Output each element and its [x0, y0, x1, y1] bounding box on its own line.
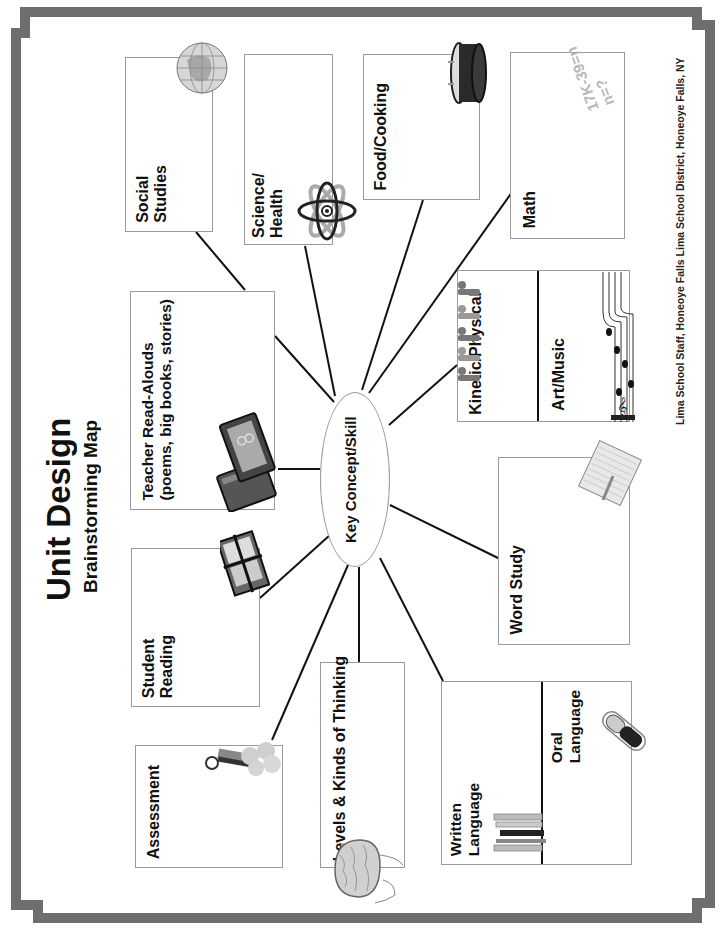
- label-line: Language: [566, 690, 584, 763]
- label-line: Science/: [250, 173, 268, 238]
- label-line: Food/Cooking: [372, 83, 390, 191]
- page-title: Unit Design: [40, 383, 76, 601]
- music-staff-icon: 𝄞: [595, 272, 643, 422]
- credit-line: Lima School Staff, Honeoye Falls Lima Sc…: [674, 45, 688, 425]
- label-line: Reading: [158, 635, 176, 698]
- label-line: Teacher Read-Alouds: [139, 299, 157, 501]
- label-line: Word Study: [508, 545, 526, 634]
- label-line: Math: [521, 191, 539, 228]
- label-line: Student: [140, 635, 158, 698]
- label-levels-kinds-thinking: Levels & Kinds of Thinking: [331, 656, 349, 861]
- page-subtitle: Brainstorming Map: [80, 383, 106, 593]
- atom-icon: [296, 180, 358, 242]
- label-oral-language: Oral Language: [548, 690, 584, 763]
- book-stack-icon: [220, 525, 270, 605]
- label-line: (poems, big books, stories): [157, 299, 175, 501]
- label-line: Studies: [152, 165, 170, 223]
- label-teacher-read-alouds: Teacher Read-Alouds (poems, big books, s…: [139, 299, 175, 501]
- label-social-studies: Social Studies: [134, 165, 171, 223]
- open-book-icon: [203, 412, 281, 512]
- label-science-health: Science/ Health: [250, 173, 287, 238]
- label-line: Health: [268, 173, 286, 238]
- label-assessment: Assessment: [145, 765, 163, 859]
- label-line: Social: [134, 165, 152, 223]
- label-food-cooking: Food/Cooking: [372, 83, 390, 191]
- label-written-language: Written Language: [447, 783, 483, 856]
- label-student-reading: Student Reading: [140, 635, 177, 698]
- label-math: Math: [521, 191, 539, 228]
- notepad-pencil-icon: [575, 440, 645, 506]
- globe-icon: [175, 42, 229, 94]
- ribbon-medals-icon: [192, 738, 287, 788]
- label-line: Assessment: [145, 765, 163, 859]
- label-line: Art/Music: [550, 338, 568, 411]
- label-key-concept: Key Concept/Skill: [342, 405, 359, 555]
- label-line: Written: [447, 783, 465, 856]
- label-line: Levels & Kinds of Thinking: [331, 656, 349, 861]
- label-line: Language: [465, 783, 483, 856]
- svg-text:𝄞: 𝄞: [617, 395, 628, 417]
- key-concept-ellipse: Key Concept/Skill: [320, 392, 390, 567]
- cooking-pot-icon: [448, 40, 488, 106]
- label-line: Oral: [548, 690, 566, 763]
- microphone-icon: [595, 705, 653, 757]
- brain-icon: [325, 835, 410, 905]
- label-art-music: Art/Music: [550, 338, 568, 411]
- pencils-icon: [490, 812, 548, 854]
- people-exercising-icon: [450, 275, 486, 385]
- label-word-study: Word Study: [508, 545, 526, 634]
- connector-social-studies: [196, 232, 245, 290]
- kinetic-art-divider: [537, 271, 539, 421]
